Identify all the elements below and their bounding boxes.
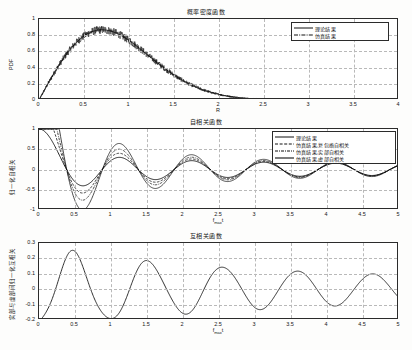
x-tick-label: 2 xyxy=(180,211,183,217)
x-tick-label: 0 xyxy=(36,101,39,107)
gridline-vertical xyxy=(75,243,76,318)
legend-item: 理论结果 xyxy=(275,134,393,141)
x-tick-label: 3 xyxy=(252,321,255,327)
gridline-vertical xyxy=(147,243,148,318)
x-tick-label: 5 xyxy=(396,211,399,217)
x-tick-label: 1.5 xyxy=(169,101,177,107)
legend-line-dashdot-icon xyxy=(275,148,294,154)
x-tick-label: 1 xyxy=(126,101,129,107)
x-tick-label: 0 xyxy=(36,321,39,327)
crosscorrelation-chart-title: 互相关函数 xyxy=(0,232,412,240)
x-tick-label: 0.5 xyxy=(70,321,78,327)
y-tick-label: 0.3 xyxy=(18,239,35,245)
x-tick-label: 1.5 xyxy=(142,321,150,327)
legend-line-dashed-icon xyxy=(275,141,294,147)
x-tick-label: 2 xyxy=(216,101,219,107)
crosscorrelation-chart: 互相关函数 00.511.522.533.544.550.30.20.10-0.… xyxy=(0,232,412,350)
x-tick-label: 0 xyxy=(36,211,39,217)
y-tick-label: -0.1 xyxy=(18,301,35,307)
crosscorrelation-y-axis-label: 实部与虚部间归一化互相关 xyxy=(8,248,16,320)
x-tick-label: 2.5 xyxy=(214,321,222,327)
legend-label: 仿真结果,实部自相关 xyxy=(296,148,344,155)
legend-line-dashdot-icon xyxy=(294,32,313,38)
gridline-vertical xyxy=(219,129,220,208)
legend-item: 仿真结果 xyxy=(294,32,386,39)
gridline-vertical xyxy=(183,129,184,208)
legend-label: 仿真结果 xyxy=(315,32,336,39)
y-tick-label: 1 xyxy=(18,125,35,131)
autocorrelation-chart: 自相关函数 00.511.522.533.544.5510.50-0.5-1 归… xyxy=(0,118,412,230)
gridline-horizontal xyxy=(39,84,397,85)
legend-line-solid-icon xyxy=(294,25,313,31)
x-tick-label: 3 xyxy=(252,211,255,217)
gridline-horizontal xyxy=(39,51,397,52)
y-tick-label: 1 xyxy=(18,15,35,21)
gridline-vertical xyxy=(219,243,220,318)
gridline-vertical xyxy=(129,19,130,98)
xlabel-tail: t xyxy=(222,217,224,223)
xlabel-sub: max xyxy=(214,330,222,335)
x-tick-label: 1 xyxy=(108,211,111,217)
gridline-vertical xyxy=(255,243,256,318)
x-tick-label: 4.5 xyxy=(358,321,366,327)
legend-line-solid-icon xyxy=(275,134,294,140)
legend-item: 仿真结果,虚部自相关 xyxy=(275,155,393,162)
gridline-horizontal xyxy=(39,170,397,171)
gridline-horizontal xyxy=(39,289,397,290)
x-tick-label: 2 xyxy=(180,321,183,327)
legend-item: 理论结果 xyxy=(294,25,386,32)
y-tick-label: 0 xyxy=(18,285,35,291)
autocorrelation-y-axis-label: 归一化自相关 xyxy=(8,159,16,195)
gridline-vertical xyxy=(363,243,364,318)
x-tick-label: 3.5 xyxy=(349,101,357,107)
autocorrelation-x-axis-label: fmaxt xyxy=(213,217,224,225)
xlabel-tail: t xyxy=(222,327,224,333)
gridline-vertical xyxy=(111,129,112,208)
gridline-vertical xyxy=(147,129,148,208)
crosscorrelation-x-axis-label: fmaxt xyxy=(213,327,224,335)
crosscorrelation-plot-area xyxy=(38,242,398,319)
gridline-vertical xyxy=(219,19,220,98)
y-tick-label: 0.5 xyxy=(18,145,35,151)
legend-line-solid2-icon xyxy=(275,155,294,161)
x-tick-label: 3.5 xyxy=(286,321,294,327)
pdf-y-axis-label: PDF xyxy=(8,59,14,70)
y-tick-label: 0.2 xyxy=(18,254,35,260)
gridline-horizontal xyxy=(39,274,397,275)
figure-page: 概率密度函数 00.511.522.533.5400.20.40.60.81 P… xyxy=(0,0,412,350)
legend-label: 仿真结果,复包络自相关 xyxy=(296,141,350,148)
x-tick-label: 1 xyxy=(108,321,111,327)
gridline-horizontal xyxy=(39,68,397,69)
x-tick-label: 0.5 xyxy=(70,211,78,217)
xlabel-sub: max xyxy=(214,220,222,225)
autocorrelation-legend: 理论结果 仿真结果,复包络自相关 仿真结果,实部自相关 仿真结果,虚部自相关 xyxy=(272,131,396,164)
gridline-vertical xyxy=(84,19,85,98)
y-tick-label: -1 xyxy=(18,206,35,212)
x-tick-label: 2.5 xyxy=(259,101,267,107)
y-tick-label: 0.2 xyxy=(18,80,35,86)
x-tick-label: 3 xyxy=(306,101,309,107)
gridline-horizontal xyxy=(39,190,397,191)
legend-label: 理论结果 xyxy=(296,134,317,141)
gridline-vertical xyxy=(264,19,265,98)
x-tick-label: 4.5 xyxy=(358,211,366,217)
x-tick-label: 4 xyxy=(324,211,327,217)
pdf-x-axis-label: R xyxy=(216,107,220,113)
y-tick-label: -0.5 xyxy=(18,186,35,192)
gridline-vertical xyxy=(75,129,76,208)
gridline-vertical xyxy=(291,243,292,318)
x-tick-label: 2.5 xyxy=(214,211,222,217)
y-tick-label: 0.4 xyxy=(18,64,35,70)
y-tick-label: 0.8 xyxy=(18,31,35,37)
y-tick-label: 0 xyxy=(18,96,35,102)
y-tick-label: 0 xyxy=(18,166,35,172)
gridline-horizontal xyxy=(39,305,397,306)
x-tick-label: 0.5 xyxy=(79,101,87,107)
legend-item: 仿真结果,实部自相关 xyxy=(275,148,393,155)
legend-label: 仿真结果,虚部自相关 xyxy=(296,155,344,162)
gridline-vertical xyxy=(111,243,112,318)
x-tick-label: 5 xyxy=(396,321,399,327)
legend-label: 理论结果 xyxy=(315,25,336,32)
x-tick-label: 4 xyxy=(396,101,399,107)
legend-item: 仿真结果,复包络自相关 xyxy=(275,141,393,148)
